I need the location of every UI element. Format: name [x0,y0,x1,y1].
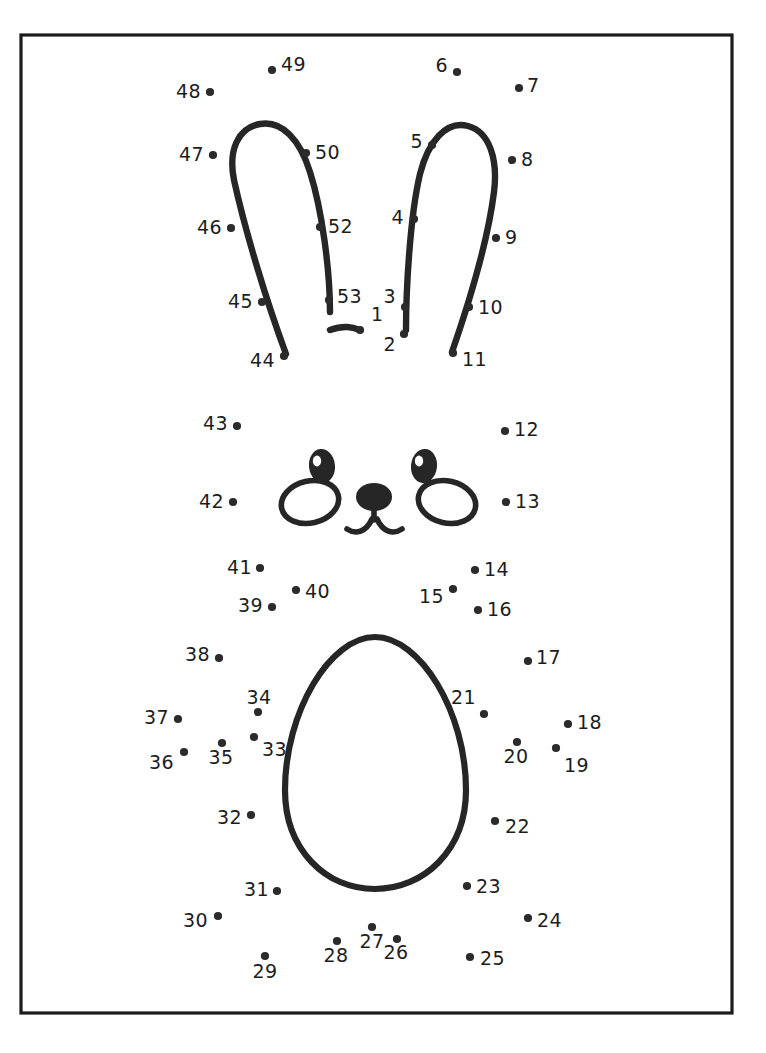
dot-number-label: 33 [262,738,287,760]
dot-number-label: 34 [247,686,272,708]
dot-marker: 12 [501,418,539,440]
dot-number-label: 15 [419,585,444,607]
dot-point [515,84,523,92]
dot-marker: 36 [149,748,188,773]
dot-number-label: 14 [484,558,509,580]
dot-point [215,654,223,662]
dot-number-label: 4 [392,206,405,228]
dot-marker: 48 [176,80,214,102]
dot-marker: 25 [466,947,505,969]
dot-point [471,566,479,574]
dot-marker: 28 [324,937,349,966]
dot-number-label: 26 [384,941,409,963]
dot-number-label: 2 [384,333,397,355]
dot-marker: 21 [451,686,488,719]
dot-number-label: 12 [514,418,539,440]
dot-marker: 14 [471,558,509,580]
dot-number-label: 35 [209,746,234,768]
dot-point [325,296,333,304]
dot-number-label: 22 [505,815,530,837]
dot-point [449,349,457,357]
dot-number-label: 28 [324,944,349,966]
dot-marker: 11 [449,348,487,370]
dot-marker: 13 [502,490,540,512]
dot-point [492,234,500,242]
dot-number-label: 13 [515,490,540,512]
dot-marker: 40 [292,580,330,602]
dot-number-label: 19 [564,754,589,776]
dot-number-label: 38 [185,643,210,665]
dot-number-label: 9 [505,226,518,248]
dot-number-label: 41 [227,556,252,578]
dot-point [206,88,214,96]
dot-number-label: 24 [537,909,562,931]
dot-number-label: 29 [253,960,278,982]
dot-marker: 19 [552,744,589,776]
dot-marker: 35 [209,739,234,768]
dot-point [401,303,409,311]
dot-marker: 39 [238,594,276,616]
dot-point [491,817,499,825]
dot-point [428,141,436,149]
dot-marker: 16 [474,598,512,620]
dot-number-label: 27 [360,930,385,952]
dot-point [280,352,288,360]
dot-point [453,68,461,76]
dot-number-label: 16 [487,598,512,620]
dot-point [258,298,266,306]
dot-marker: 6 [436,54,462,77]
dot-number-label: 21 [451,686,476,708]
left-cheek-oval [277,475,343,529]
dot-number-label: 1 [371,303,384,325]
dot-number-label: 10 [478,296,503,318]
dot-marker: 9 [492,226,518,248]
dot-number-label: 31 [244,878,269,900]
dot-marker: 43 [203,412,241,434]
dot-number-label: 37 [144,706,169,728]
right-eye-highlight [415,456,423,467]
right-ear-artwork [406,125,495,352]
dot-number-label: 20 [504,745,529,767]
dot-point [292,586,300,594]
dot-point [268,66,276,74]
dot-number-label: 48 [176,80,201,102]
dot-point [227,224,235,232]
dot-point [508,156,516,164]
dot-marker: 49 [268,53,306,75]
dot-marker: 18 [564,711,602,733]
dot-marker: 34 [247,686,272,717]
left-eye-highlight [313,456,321,467]
dot-marker: 2 [384,330,409,355]
dot-marker: 42 [199,490,237,512]
dot-point [465,303,473,311]
dot-point [273,887,281,895]
dot-number-label: 3 [384,285,397,307]
dot-point [356,326,364,334]
dot-marker: 41 [227,556,264,578]
dot-marker: 22 [491,815,530,837]
dot-marker: 45 [228,290,266,312]
dot-point [564,720,572,728]
bunny-face-artwork [277,448,480,532]
dot-point [502,498,510,506]
left-whisker-stroke [347,519,372,532]
puzzle-page: 1234567891011121314151617181920212223242… [0,0,766,1053]
dot-number-label: 30 [183,909,208,931]
dot-number-label: 40 [305,580,330,602]
dot-marker: 33 [250,733,287,760]
dot-number-label: 36 [149,751,174,773]
dot-marker: 29 [253,952,278,982]
dot-number-label: 18 [577,711,602,733]
dot-marker: 32 [217,806,255,828]
dot-number-label: 11 [462,348,487,370]
dot-marker: 27 [360,923,385,952]
dot-number-label: 52 [328,215,353,237]
dot-point [316,223,324,231]
dot-point [466,953,474,961]
dot-marker: 7 [515,74,540,96]
dot-marker: 37 [144,706,182,728]
dot-marker: 47 [179,143,217,165]
dot-number-label: 42 [199,490,224,512]
dot-number-label: 5 [411,130,424,152]
dot-number-label: 6 [436,54,449,76]
